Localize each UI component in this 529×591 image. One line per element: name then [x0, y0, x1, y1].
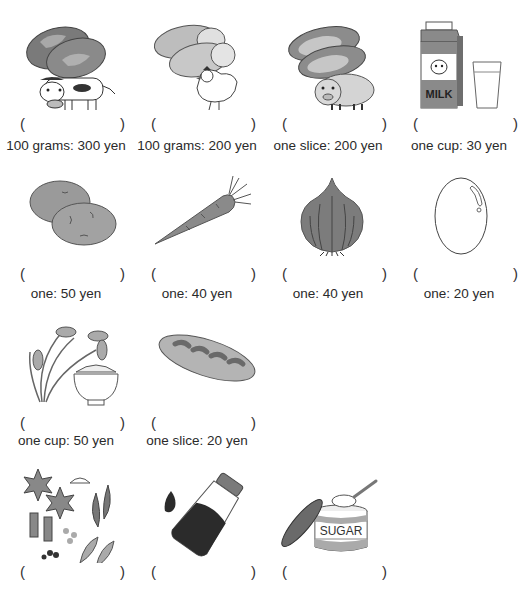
answer-blank-onion[interactable]: [290, 266, 378, 282]
answer-blank-egg[interactable]: [421, 266, 509, 282]
answer-paren-close: ): [120, 116, 125, 132]
answer-paren-open: (: [413, 116, 418, 132]
answer-blank-beef[interactable]: [28, 116, 116, 132]
soy-sauce-bottle-icon: [131, 463, 263, 563]
price-label: one cup: 50 yen: [0, 433, 136, 449]
answer-blank-rice[interactable]: [28, 415, 116, 431]
price-label: one: 40 yen: [127, 286, 267, 302]
bread-loaf-icon: [131, 326, 263, 396]
item-egg: ( ) one: 20 yen: [393, 160, 525, 310]
chicken-meat-and-hen-icon: [131, 10, 263, 110]
answer-paren-open: (: [20, 564, 25, 580]
item-onion: ( ) one: 40 yen: [262, 160, 394, 310]
item-carrot: ( ) one: 40 yen: [131, 160, 263, 310]
answer-paren-close: ): [251, 415, 256, 431]
answer-blank-sugar[interactable]: [290, 564, 378, 580]
pork-and-pig-icon: [262, 10, 394, 110]
milk-carton-text: MILK: [426, 88, 453, 100]
carrot-icon: [131, 174, 263, 254]
price-label: one: 40 yen: [258, 286, 398, 302]
answer-paren-open: (: [282, 564, 287, 580]
answer-paren-open: (: [20, 415, 25, 431]
answer-paren-close: ): [251, 564, 256, 580]
answer-paren-close: ): [120, 415, 125, 431]
beef-and-cow-icon: [0, 10, 132, 110]
answer-paren-close: ): [513, 266, 518, 282]
answer-paren-open: (: [151, 415, 156, 431]
answer-paren-close: ): [120, 564, 125, 580]
item-pork: ( ) one slice: 200 yen: [262, 0, 394, 160]
item-chicken: ( ) 100 grams: 200 yen: [131, 0, 263, 160]
rice-plant-and-bowl-icon: [0, 316, 132, 408]
price-label: one: 50 yen: [0, 286, 136, 302]
price-label: 100 grams: 200 yen: [127, 138, 267, 154]
answer-paren-close: ): [120, 266, 125, 282]
answer-blank-carrot[interactable]: [159, 266, 247, 282]
answer-paren-close: ): [382, 116, 387, 132]
answer-paren-open: (: [282, 116, 287, 132]
onion-icon: [262, 176, 394, 256]
answer-blank-spices[interactable]: [28, 564, 116, 580]
answer-blank-chicken[interactable]: [159, 116, 247, 132]
sugar-tin-text: SUGAR: [320, 524, 363, 538]
item-rice: ( ) one cup: 50 yen: [0, 310, 132, 455]
answer-paren-close: ): [382, 564, 387, 580]
answer-paren-close: ): [251, 116, 256, 132]
potatoes-icon: [0, 178, 132, 258]
item-spices: ( ): [0, 455, 132, 591]
answer-blank-pork[interactable]: [290, 116, 378, 132]
answer-paren-open: (: [151, 266, 156, 282]
sugar-tin-icon: SUGAR: [262, 471, 394, 561]
item-bread: ( ) one slice: 20 yen: [131, 310, 263, 455]
answer-paren-open: (: [151, 564, 156, 580]
item-milk: MILK ( ) one cup: 30 yen: [393, 0, 525, 160]
answer-paren-close: ): [513, 116, 518, 132]
price-label: one cup: 30 yen: [389, 138, 529, 154]
item-sugar: SUGAR ( ): [262, 455, 394, 591]
item-potato: ( ) one: 50 yen: [0, 160, 132, 310]
answer-paren-close: ): [251, 266, 256, 282]
answer-paren-open: (: [151, 116, 156, 132]
answer-blank-potato[interactable]: [28, 266, 116, 282]
answer-blank-bread[interactable]: [159, 415, 247, 431]
answer-paren-open: (: [20, 116, 25, 132]
price-label: one slice: 20 yen: [127, 433, 267, 449]
egg-icon: [393, 174, 525, 256]
item-beef: ( ) 100 grams: 300 yen: [0, 0, 132, 160]
price-label: one slice: 200 yen: [258, 138, 398, 154]
spices-icon: [0, 463, 132, 563]
answer-paren-open: (: [282, 266, 287, 282]
price-label: 100 grams: 300 yen: [0, 138, 136, 154]
answer-paren-open: (: [20, 266, 25, 282]
milk-carton-and-glass-icon: MILK: [393, 10, 525, 110]
item-soy-sauce: ( ): [131, 455, 263, 591]
answer-paren-close: ): [382, 266, 387, 282]
answer-paren-open: (: [413, 266, 418, 282]
price-label: one: 20 yen: [389, 286, 529, 302]
answer-blank-soy-sauce[interactable]: [159, 564, 247, 580]
answer-blank-milk[interactable]: [421, 116, 509, 132]
